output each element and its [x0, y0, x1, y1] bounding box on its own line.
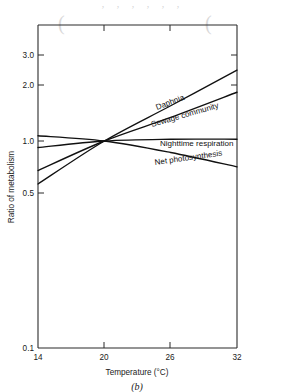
x-axis-title: Temperature (°C) — [106, 368, 169, 377]
plot-frame — [38, 25, 237, 348]
chart-series-lines — [38, 70, 237, 184]
x-tick-label-14: 14 — [33, 353, 43, 362]
y-tick-label-1-0: 1.0 — [23, 137, 35, 146]
y-tick-label-0-5: 0.5 — [23, 189, 35, 198]
x-tick-label-20: 20 — [99, 353, 109, 362]
y-tick-label-3-0: 3.0 — [23, 51, 35, 60]
figure-caption: (b) — [131, 381, 143, 392]
metabolism-temperature-chart: 3.0 2.0 1.0 0.5 0.1 14 20 26 32 Temperat… — [0, 0, 286, 392]
x-tick-label-32: 32 — [232, 353, 242, 362]
y-axis-title: Ratio of metabolism — [7, 151, 16, 224]
y-tick-label-2-0: 2.0 — [23, 81, 35, 90]
x-axis-ticks — [104, 25, 170, 348]
y-tick-label-0-1: 0.1 — [23, 344, 35, 353]
x-tick-label-26: 26 — [165, 353, 175, 362]
y-axis-ticks — [38, 55, 237, 193]
series-label-nighttime-respiration: Nighttime respiration — [160, 139, 233, 148]
series-line-daphnia — [38, 70, 237, 184]
figure-container: , , , , , , ( ( 3.0 2.0 1.0 0.5 0.1 — [0, 0, 286, 392]
series-label-daphnia: Daphnia — [154, 93, 186, 112]
chart-series-labels: Daphnia Sewage community Nighttime respi… — [150, 93, 233, 167]
